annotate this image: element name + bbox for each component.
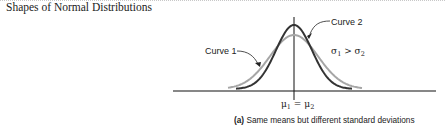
curve-2-arrow-line xyxy=(310,21,330,34)
figure-caption: (a) Same means but different standard de… xyxy=(234,115,415,125)
mean-label: μ1 = μ2 xyxy=(281,99,314,111)
sigma-relation: σ1 > σ2 xyxy=(331,46,365,58)
curve-2-arrowhead-icon xyxy=(307,33,312,39)
normal-distribution-figure: Curve 2 Curve 1 σ1 > σ2 μ1 = μ2 xyxy=(0,0,445,130)
curve-2-label: Curve 2 xyxy=(331,17,363,27)
curve-1-arrow-line xyxy=(237,51,258,64)
curve-1-arrowhead-icon xyxy=(255,62,261,67)
curve-1-label: Curve 1 xyxy=(205,46,237,56)
curve-1 xyxy=(228,35,362,88)
caption-prefix: (a) xyxy=(234,115,244,125)
caption-text: Same means but different standard deviat… xyxy=(244,115,414,125)
